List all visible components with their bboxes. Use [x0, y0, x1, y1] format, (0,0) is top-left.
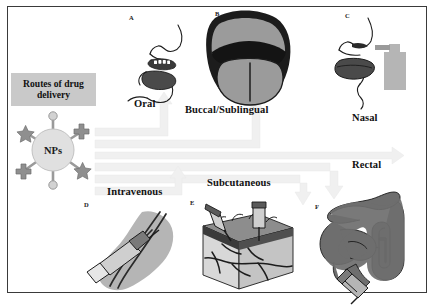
panel-letter-d: D: [84, 201, 89, 208]
route-label-nasal: Nasal: [352, 112, 378, 123]
title-line-2: delivery: [37, 90, 70, 101]
figure-root: NPs Routes of drug delivery Oral Buccal/…: [0, 0, 434, 305]
rectal-colon-illustration: [320, 192, 404, 304]
routes-of-drug-delivery-title-box: Routes of drug delivery: [11, 73, 96, 106]
oral-mouth-illustration: [128, 25, 182, 102]
spray-bottle-neck: [389, 44, 400, 53]
panel-letter-f: F: [315, 203, 319, 210]
subcutaneous-illustration: [203, 202, 293, 289]
panel-letter-c: C: [345, 12, 350, 19]
rectal-applicator: [337, 269, 368, 304]
artwork-layer: NPs: [0, 0, 434, 305]
route-label-intravenous: Intravenous: [107, 186, 162, 197]
tongue-illustration: [206, 11, 290, 106]
nasal-spray-illustration: [335, 18, 406, 109]
route-label-rectal: Rectal: [352, 159, 381, 170]
nanoparticle-label-text: NPs: [44, 145, 62, 156]
route-label-buccal-sublingual: Buccal/Sublingual: [185, 104, 268, 115]
route-label-oral: Oral: [134, 98, 155, 109]
spray-bottle-body: [384, 52, 406, 90]
spray-bottle-nozzle: [375, 45, 390, 50]
panel-letter-a: A: [129, 14, 134, 21]
panel-letter-b: B: [215, 10, 219, 17]
route-label-subcutaneous: Subcutaneous: [207, 177, 271, 188]
title-line-1: Routes of drug: [23, 79, 84, 90]
intravenous-illustration: [87, 211, 173, 290]
nanoparticle-graphic: NPs: [16, 112, 91, 189]
panel-letter-e: E: [190, 199, 194, 206]
